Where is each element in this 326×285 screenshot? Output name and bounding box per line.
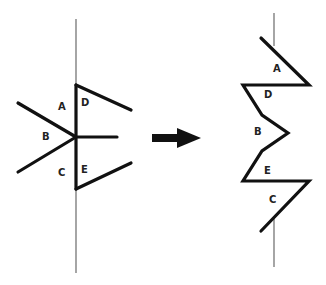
right-figure: A D B E C xyxy=(243,13,309,267)
left-label-d: D xyxy=(81,97,89,108)
left-label-e: E xyxy=(81,164,88,175)
left-label-b: B xyxy=(42,131,50,142)
transformation-diagram: A B C D E A D B E C xyxy=(0,0,326,285)
right-arrow-icon xyxy=(152,128,201,148)
left-label-a: A xyxy=(58,101,66,112)
left-lower-left-branch xyxy=(18,137,76,172)
right-label-e: E xyxy=(264,165,271,176)
left-figure: A B C D E xyxy=(18,19,131,273)
left-label-c: C xyxy=(58,167,65,178)
right-label-c: C xyxy=(269,194,276,205)
right-label-d: D xyxy=(264,89,272,100)
right-label-b: B xyxy=(254,126,262,137)
right-label-a: A xyxy=(273,63,281,74)
